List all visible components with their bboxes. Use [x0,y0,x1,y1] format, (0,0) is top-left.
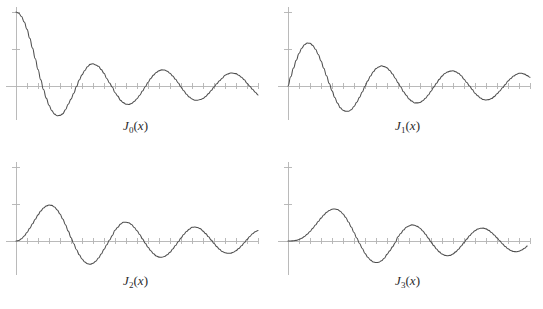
axes-group [278,162,530,275]
panel-j1: J1(x) [272,0,543,154]
axes-group [6,162,258,275]
panel-label-fn: J [395,118,401,133]
axes-group [278,7,530,120]
curve-j0 [16,12,258,116]
panel-label-fn: J [395,273,401,288]
panel-label-fn: J [123,273,129,288]
panel-label-close-paren: ) [416,118,420,133]
panel-label-fn: J [123,118,129,133]
panel-j3: J3(x) [272,155,543,309]
plot-area-j0 [0,0,271,120]
chart-svg-j2 [0,155,271,275]
curve-j1 [288,43,530,111]
curve-j2 [16,205,258,264]
curve-j3 [288,209,527,263]
chart-svg-j3 [272,155,543,275]
panel-label-close-paren: ) [144,118,148,133]
panel-label-close-paren: ) [144,273,148,288]
panel-label-j0: J0(x) [0,118,271,135]
plot-area-j3 [272,155,543,275]
panel-j0: J0(x) [0,0,271,154]
panel-j2: J2(x) [0,155,271,309]
plot-area-j2 [0,155,271,275]
plot-area-j1 [272,0,543,120]
panel-label-j1: J1(x) [272,118,543,135]
panel-label-j2: J2(x) [0,273,271,290]
chart-svg-j0 [0,0,271,120]
chart-svg-j1 [272,0,543,120]
panel-label-j3: J3(x) [272,273,543,290]
bessel-function-figure: J0(x) J1(x) J2(x) J3(x) [0,0,543,309]
panel-label-close-paren: ) [416,273,420,288]
